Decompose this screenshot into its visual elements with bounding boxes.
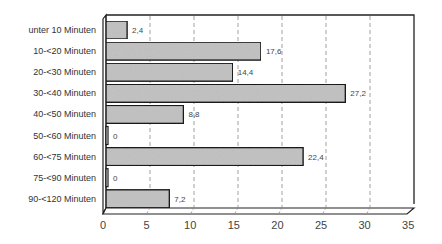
bar: 0 bbox=[106, 169, 118, 187]
bar: 0 bbox=[106, 127, 118, 145]
x-tick-label: 25 bbox=[315, 219, 327, 231]
value-label: 27,2 bbox=[350, 89, 366, 98]
category-label: unter 10 Minuten bbox=[28, 25, 96, 35]
bar: 8,8 bbox=[106, 105, 200, 123]
value-label: 0 bbox=[113, 132, 118, 141]
category-label: 90-<120 Minuten bbox=[28, 194, 96, 204]
bar-chart: 2,417,614,427,28,8022,407,2 unter 10 Min… bbox=[0, 0, 442, 244]
x-tick-label: 35 bbox=[402, 219, 414, 231]
category-labels: unter 10 Minuten10-<20 Minuten20-<30 Min… bbox=[28, 25, 96, 204]
value-label: 0 bbox=[113, 174, 118, 183]
x-tick-label: 10 bbox=[184, 219, 196, 231]
bar: 2,4 bbox=[106, 21, 144, 39]
category-label: 10-<20 Minuten bbox=[33, 46, 96, 56]
category-label: 60-<75 Minuten bbox=[33, 152, 96, 162]
value-label: 14,4 bbox=[238, 68, 254, 77]
value-label: 17,6 bbox=[266, 47, 282, 56]
x-tick-label: 30 bbox=[358, 219, 370, 231]
bars: 2,417,614,427,28,8022,407,2 bbox=[106, 21, 366, 208]
category-label: 30-<40 Minuten bbox=[33, 88, 96, 98]
category-label: 75-<90 Minuten bbox=[33, 173, 96, 183]
bar: 27,2 bbox=[106, 84, 366, 102]
x-tick-label: 20 bbox=[271, 219, 283, 231]
value-label: 2,4 bbox=[132, 26, 144, 35]
bar: 14,4 bbox=[106, 63, 254, 81]
value-label: 7,2 bbox=[174, 195, 186, 204]
category-label: 50-<60 Minuten bbox=[33, 131, 96, 141]
x-tick-label: 15 bbox=[228, 219, 240, 231]
bar: 22,4 bbox=[106, 148, 324, 166]
category-label: 40-<50 Minuten bbox=[33, 109, 96, 119]
x-tick-label: 0 bbox=[100, 219, 106, 231]
value-label: 8,8 bbox=[188, 110, 200, 119]
bar: 17,6 bbox=[106, 42, 282, 60]
category-label: 20-<30 Minuten bbox=[33, 67, 96, 77]
x-tick-label: 5 bbox=[144, 219, 150, 231]
bar: 7,2 bbox=[106, 190, 186, 208]
value-label: 22,4 bbox=[308, 153, 324, 162]
x-axis-ticks: 05101520253035 bbox=[100, 219, 414, 231]
